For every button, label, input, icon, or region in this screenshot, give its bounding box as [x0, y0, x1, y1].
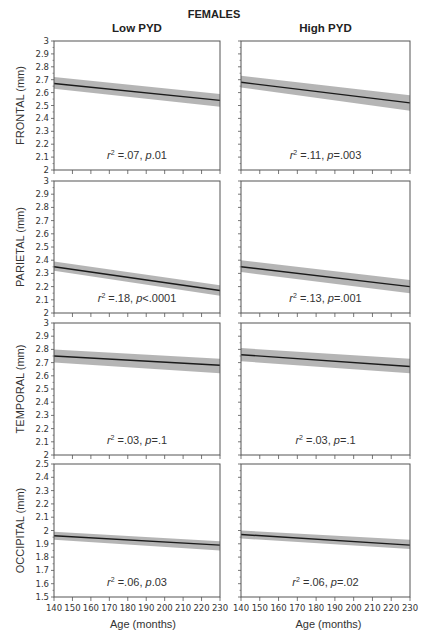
y-tick-label: 2.9 [35, 189, 49, 199]
x-tick-label: 200 [157, 603, 173, 613]
stat-annotation: r2 =.11, p=.003 [290, 149, 362, 161]
y-tick-label: 2.1 [35, 152, 49, 162]
x-axis-label: Age (months) [110, 618, 176, 630]
panel-temporal-low-pyd: 22.12.22.32.42.52.62.72.82.93TEMPORAL (m… [14, 318, 220, 460]
y-tick-label: 1.5 [35, 592, 49, 602]
y-tick-label: 2.7 [35, 75, 49, 85]
x-tick-label: 230 [212, 603, 228, 613]
y-tick-label: 3 [44, 318, 49, 328]
y-tick-label: 2.4 [35, 397, 49, 407]
x-tick-label: 220 [383, 603, 399, 613]
y-tick-label: 2.8 [35, 344, 49, 354]
stat-annotation: r2 =.03, p=.1 [107, 434, 167, 446]
y-tick-label: 3 [44, 176, 49, 186]
y-tick-label: 2 [44, 526, 49, 536]
x-tick-label: 180 [308, 603, 324, 613]
panel-parietal-low-pyd: 22.12.22.32.42.52.62.72.82.93PARIETAL (m… [14, 176, 220, 318]
y-tick-label: 2.4 [35, 255, 49, 265]
y-axis-label: OCCIPITAL (mm) [14, 488, 26, 574]
y-tick-label: 2.2 [35, 424, 49, 434]
panel-frontal-low-pyd: 22.12.22.32.42.52.62.72.82.93FRONTAL (mm… [14, 36, 220, 175]
y-tick-label: 1.8 [35, 552, 49, 562]
panel-temporal-high-pyd: r2 =.03, p=.1 [238, 323, 410, 459]
y-tick-label: 2.9 [35, 49, 49, 59]
y-axis-label: TEMPORAL (mm) [14, 345, 26, 434]
x-tick-label: 160 [83, 603, 99, 613]
y-axis-label: FRONTAL (mm) [14, 66, 26, 145]
y-tick-label: 1.9 [35, 539, 49, 549]
stat-annotation: r2 =.07, p.01 [107, 149, 167, 161]
y-tick-label: 2.5 [35, 101, 49, 111]
y-tick-label: 1.6 [35, 579, 49, 589]
stat-annotation: r2 =.13, p=.001 [289, 292, 361, 304]
stat-annotation: r2 =.18, p<.0001 [98, 292, 177, 304]
y-tick-label: 2.1 [35, 437, 49, 447]
y-tick-label: 2.4 [35, 113, 49, 123]
y-tick-label: 2.2 [35, 282, 49, 292]
panel-occipital-low-pyd: 1.51.61.71.81.922.12.22.32.42.5140150160… [14, 459, 228, 613]
y-tick-label: 2 [44, 165, 49, 175]
y-tick-label: 2.1 [35, 295, 49, 305]
y-tick-label: 2.5 [35, 242, 49, 252]
y-axis-label: PARIETAL (mm) [14, 207, 26, 287]
stat-annotation: r2 =.06, p=.02 [292, 576, 358, 588]
y-tick-label: 2.3 [35, 268, 49, 278]
panel-occipital-high-pyd: 140150160170180190200210220230r2 =.06, p… [233, 464, 418, 613]
stat-annotation: r2 =.06, p.03 [107, 576, 167, 588]
x-tick-label: 140 [46, 603, 62, 613]
y-tick-label: 2.7 [35, 358, 49, 368]
y-tick-label: 2.2 [35, 139, 49, 149]
y-tick-label: 2.6 [35, 371, 49, 381]
y-tick-label: 2.9 [35, 331, 49, 341]
y-tick-label: 3 [44, 36, 49, 46]
y-tick-label: 2.3 [35, 126, 49, 136]
y-tick-label: 2.5 [35, 459, 49, 469]
y-tick-label: 2.2 [35, 499, 49, 509]
y-tick-label: 2.6 [35, 88, 49, 98]
x-tick-label: 210 [364, 603, 380, 613]
x-tick-label: 140 [233, 603, 249, 613]
y-tick-label: 2.8 [35, 62, 49, 72]
y-tick-label: 2.5 [35, 384, 49, 394]
y-tick-label: 2.7 [35, 216, 49, 226]
stat-annotation: r2 =.03, p=.1 [295, 434, 355, 446]
regression-line [54, 267, 220, 291]
panel-frontal-high-pyd: r2 =.11, p=.003 [238, 41, 410, 174]
y-tick-label: 2.3 [35, 410, 49, 420]
panel-parietal-high-pyd: r2 =.13, p=.001 [238, 181, 410, 317]
x-tick-label: 200 [346, 603, 362, 613]
x-tick-label: 220 [193, 603, 209, 613]
y-tick-label: 2.6 [35, 229, 49, 239]
y-tick-label: 1.7 [35, 565, 49, 575]
x-tick-label: 190 [327, 603, 343, 613]
x-tick-label: 150 [64, 603, 80, 613]
x-tick-label: 190 [138, 603, 154, 613]
panel-grid: 22.12.22.32.42.52.62.72.82.93FRONTAL (mm… [0, 0, 428, 638]
x-axis-label: Age (months) [295, 618, 361, 630]
regression-line [241, 267, 410, 287]
x-tick-label: 210 [175, 603, 191, 613]
y-tick-label: 2.1 [35, 512, 49, 522]
x-tick-label: 230 [402, 603, 418, 613]
y-tick-label: 2.3 [35, 486, 49, 496]
x-tick-label: 180 [120, 603, 136, 613]
x-tick-label: 170 [289, 603, 305, 613]
x-tick-label: 150 [252, 603, 268, 613]
y-tick-label: 2 [44, 308, 49, 318]
x-tick-label: 160 [270, 603, 286, 613]
x-tick-label: 170 [101, 603, 117, 613]
y-tick-label: 2.8 [35, 202, 49, 212]
y-tick-label: 2.4 [35, 472, 49, 482]
